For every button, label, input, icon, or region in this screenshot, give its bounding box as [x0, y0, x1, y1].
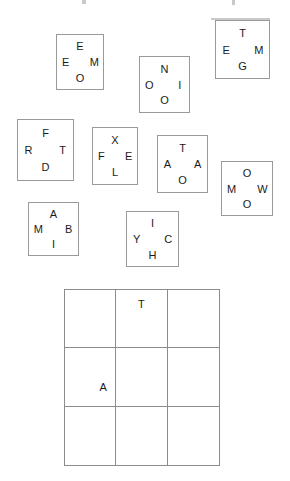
card-letter-top: X	[111, 134, 118, 145]
card-letter-bottom: G	[238, 61, 247, 72]
card-letter-left: E	[222, 44, 229, 55]
card-letter-top: I	[151, 218, 154, 229]
card-letter-left: E	[62, 57, 69, 68]
letter-card[interactable]: XFEL	[92, 127, 138, 185]
card-letter-right: M	[254, 44, 263, 55]
card-letter-left: M	[34, 224, 43, 235]
letter-card[interactable]: FRTD	[17, 119, 74, 181]
card-letter-left: A	[164, 159, 171, 170]
card-letter-top: F	[42, 127, 49, 138]
grid-cell-r2c2[interactable]	[168, 407, 219, 465]
card-letter-bottom: D	[42, 162, 50, 173]
card-letter-right: B	[65, 224, 72, 235]
card-letter-top: O	[243, 168, 252, 179]
card-letter-right: T	[59, 145, 66, 156]
grid-cell-letter: T	[138, 298, 145, 309]
card-letter-top: T	[239, 27, 246, 38]
card-letter-left: O	[145, 79, 154, 90]
card-letter-bottom: O	[160, 95, 169, 106]
grid-cell-r0c2[interactable]	[168, 290, 219, 348]
cropped-artifact	[82, 0, 86, 4]
letter-card[interactable]: NOIO	[139, 56, 190, 113]
card-letter-right: E	[125, 151, 132, 162]
grid-cell-r0c1[interactable]: T	[116, 290, 167, 348]
card-letter-bottom: O	[76, 72, 85, 83]
card-letter-top: N	[161, 63, 169, 74]
grid-cell-r1c1[interactable]	[116, 348, 167, 406]
card-letter-bottom: O	[243, 198, 252, 209]
card-letter-bottom: L	[112, 167, 118, 178]
grid-cell-r2c0[interactable]	[65, 407, 116, 465]
letter-card[interactable]: OMWO	[221, 161, 273, 216]
card-letter-left: Y	[133, 234, 140, 245]
letter-card[interactable]: TEMG	[215, 20, 270, 79]
card-letter-right: W	[257, 183, 267, 194]
card-letter-right: C	[164, 234, 172, 245]
card-letter-top: A	[50, 208, 57, 219]
grid-cell-r1c0[interactable]: A	[65, 348, 116, 406]
cropped-artifact	[232, 0, 235, 5]
card-letter-left: R	[24, 145, 32, 156]
card-letter-bottom: O	[178, 175, 187, 186]
answer-grid[interactable]: TA	[64, 289, 220, 466]
letter-card[interactable]: IYCH	[126, 211, 179, 267]
grid-cell-r1c2[interactable]	[168, 348, 219, 406]
card-letter-right: I	[178, 79, 181, 90]
card-letter-bottom: H	[149, 249, 157, 260]
letter-card[interactable]: TAAO	[157, 135, 208, 193]
card-letter-right: M	[90, 57, 99, 68]
card-letter-top: T	[179, 142, 186, 153]
grid-cell-r0c0[interactable]	[65, 290, 116, 348]
letter-card[interactable]: AMBI	[28, 202, 79, 256]
card-letter-bottom: I	[52, 239, 55, 250]
grid-cell-letter: A	[100, 381, 107, 392]
card-letter-top: E	[76, 41, 83, 52]
puzzle-canvas: EEMONOIOTEMGFRTDXFELTAAOOMWOAMBIIYCH TA	[0, 0, 290, 481]
card-letter-left: F	[98, 151, 105, 162]
grid-cell-r2c1[interactable]	[116, 407, 167, 465]
letter-card[interactable]: EEMO	[56, 34, 104, 90]
card-letter-left: M	[227, 183, 236, 194]
card-letter-right: A	[194, 159, 201, 170]
